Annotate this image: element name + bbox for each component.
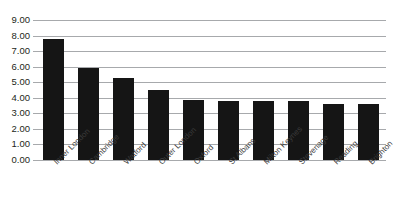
y-axis-tick-label: 5.00 bbox=[12, 77, 31, 87]
y-axis-tick-mark bbox=[33, 67, 36, 68]
y-axis-tick-label: 6.00 bbox=[12, 62, 31, 72]
plot-area bbox=[36, 20, 386, 160]
bar bbox=[43, 39, 64, 160]
y-axis-tick-mark bbox=[33, 144, 36, 145]
y-axis-tick-label: 3.00 bbox=[12, 108, 31, 118]
bar bbox=[78, 68, 99, 160]
y-axis-tick-mark bbox=[33, 98, 36, 99]
y-axis-tick-label: 4.00 bbox=[12, 93, 31, 103]
y-axis-tick-mark bbox=[33, 51, 36, 52]
bar-series bbox=[36, 20, 386, 160]
x-axis-category-labels: Inner LondonCambridgeWatfordOuter London… bbox=[36, 160, 386, 220]
y-axis-tick-label: 1.00 bbox=[12, 139, 31, 149]
bar bbox=[113, 78, 134, 160]
y-axis-tick-mark bbox=[33, 129, 36, 130]
y-axis-tick-mark bbox=[33, 113, 36, 114]
y-axis-tick-labels: 0.001.002.003.004.005.006.007.008.009.00 bbox=[0, 20, 33, 160]
y-axis-tick-mark bbox=[33, 82, 36, 83]
y-axis-tick-label: 8.00 bbox=[12, 31, 31, 41]
y-axis-tick-mark bbox=[33, 20, 36, 21]
y-axis-tick-mark bbox=[33, 36, 36, 37]
y-axis-tick-label: 9.00 bbox=[12, 15, 31, 25]
y-axis-tick-label: 7.00 bbox=[12, 46, 31, 56]
chart-title-cropped bbox=[150, 0, 290, 4]
y-axis-tick-label: 2.00 bbox=[12, 124, 31, 134]
y-axis-tick-mark bbox=[33, 160, 36, 161]
y-axis-tick-label: 0.00 bbox=[12, 155, 31, 165]
